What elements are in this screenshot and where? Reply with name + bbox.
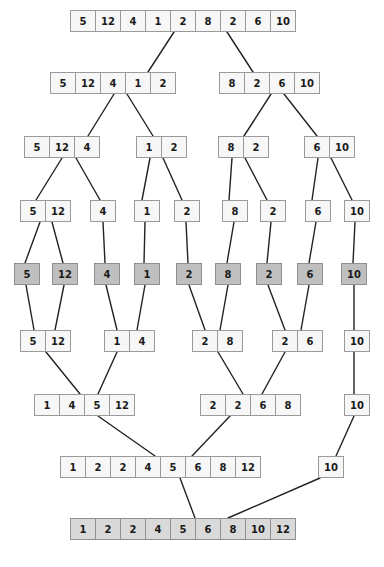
- array-node-merge-2-2: 10: [344, 394, 370, 416]
- array-cell: 1: [145, 10, 171, 32]
- array-cell: 8: [217, 330, 243, 352]
- array-cell: 1: [125, 72, 151, 94]
- array-cell: 6: [185, 456, 211, 478]
- array-cell: 12: [75, 72, 101, 94]
- array-cell: 6: [269, 72, 295, 94]
- array-cell: 2: [220, 10, 246, 32]
- array-node-result-0: 12245681012: [70, 518, 296, 540]
- array-cell: 12: [45, 330, 71, 352]
- array-node-divide-2-3: 610: [304, 136, 355, 158]
- array-cell: 12: [45, 200, 71, 222]
- array-cell: 2: [256, 263, 282, 285]
- array-cell: 2: [225, 394, 251, 416]
- array-cell: 2: [272, 330, 298, 352]
- array-node-base-case-6: 2: [256, 263, 282, 285]
- array-cell: 5: [20, 330, 46, 352]
- array-cell: 5: [160, 456, 186, 478]
- array-cell: 4: [145, 518, 171, 540]
- array-node-base-case-5: 8: [215, 263, 241, 285]
- array-cell: 5: [20, 200, 46, 222]
- array-cell: 4: [100, 72, 126, 94]
- array-cell: 10: [270, 10, 296, 32]
- array-cell: 10: [341, 263, 367, 285]
- array-node-divide-3-4: 8: [222, 200, 248, 222]
- array-cell: 2: [243, 136, 269, 158]
- array-node-base-case-1: 12: [52, 263, 78, 285]
- array-cell: 5: [50, 72, 76, 94]
- array-cell: 5: [14, 263, 40, 285]
- array-cell: 5: [24, 136, 50, 158]
- array-cell: 8: [220, 518, 246, 540]
- array-cell: 1: [136, 136, 162, 158]
- array-cell: 2: [110, 456, 136, 478]
- array-cell: 4: [120, 10, 146, 32]
- array-cell: 2: [176, 263, 202, 285]
- array-cell: 5: [84, 394, 110, 416]
- array-cell: 4: [94, 263, 120, 285]
- array-cell: 10: [318, 456, 344, 478]
- array-node-merge-1-1: 14: [104, 330, 155, 352]
- array-cell: 8: [222, 200, 248, 222]
- array-cell: 6: [195, 518, 221, 540]
- array-cell: 5: [70, 10, 96, 32]
- array-node-divide-1-0: 512412: [50, 72, 176, 94]
- array-node-base-case-4: 2: [176, 263, 202, 285]
- array-cell: 12: [49, 136, 75, 158]
- array-cell: 1: [60, 456, 86, 478]
- array-cell: 4: [129, 330, 155, 352]
- merge-sort-diagram: 5124128261051241282610512412826105124128…: [0, 0, 384, 567]
- array-cell: 8: [195, 10, 221, 32]
- array-node-divide-2-2: 82: [218, 136, 269, 158]
- array-cell: 1: [134, 200, 160, 222]
- array-node-base-case-2: 4: [94, 263, 120, 285]
- array-cell: 12: [52, 263, 78, 285]
- array-node-merge-3-0: 122456812: [60, 456, 261, 478]
- array-cell: 10: [245, 518, 271, 540]
- array-cell: 8: [275, 394, 301, 416]
- array-cell: 2: [95, 518, 121, 540]
- array-node-divide-3-6: 6: [305, 200, 331, 222]
- array-node-divide-2-0: 5124: [24, 136, 100, 158]
- array-node-divide-3-1: 4: [90, 200, 116, 222]
- array-node-divide-3-7: 10: [344, 200, 370, 222]
- array-cell: 12: [95, 10, 121, 32]
- array-node-divide-1-1: 82610: [219, 72, 320, 94]
- array-cell: 10: [344, 330, 370, 352]
- array-cell: 12: [270, 518, 296, 540]
- array-cell: 5: [170, 518, 196, 540]
- array-cell: 6: [297, 330, 323, 352]
- array-cell: 8: [215, 263, 241, 285]
- array-node-divide-3-0: 512: [20, 200, 71, 222]
- array-node-base-case-8: 10: [341, 263, 367, 285]
- array-cell: 2: [170, 10, 196, 32]
- array-node-merge-3-1: 10: [318, 456, 344, 478]
- array-cell: 10: [344, 200, 370, 222]
- array-cell: 10: [344, 394, 370, 416]
- array-cell: 1: [134, 263, 160, 285]
- array-cell: 2: [174, 200, 200, 222]
- array-node-base-case-3: 1: [134, 263, 160, 285]
- array-cell: 10: [329, 136, 355, 158]
- array-cell: 2: [85, 456, 111, 478]
- array-node-base-case-7: 6: [297, 263, 323, 285]
- array-node-merge-1-2: 28: [192, 330, 243, 352]
- array-node-merge-1-4: 10: [344, 330, 370, 352]
- array-cell: 6: [304, 136, 330, 158]
- array-cell: 1: [34, 394, 60, 416]
- array-node-merge-2-1: 2268: [200, 394, 301, 416]
- array-node-divide-3-5: 2: [260, 200, 286, 222]
- array-node-divide-3-3: 2: [174, 200, 200, 222]
- array-node-base-case-0: 5: [14, 263, 40, 285]
- array-cell: 2: [260, 200, 286, 222]
- array-cell: 2: [244, 72, 270, 94]
- array-node-merge-1-3: 26: [272, 330, 323, 352]
- array-cell: 6: [245, 10, 271, 32]
- array-cell: 2: [150, 72, 176, 94]
- array-node-merge-1-0: 512: [20, 330, 71, 352]
- array-cell: 1: [70, 518, 96, 540]
- array-cell: 6: [297, 263, 323, 285]
- array-cell: 8: [218, 136, 244, 158]
- array-cell: 12: [235, 456, 261, 478]
- array-cell: 2: [120, 518, 146, 540]
- node-layer: 5124128261051241282610512412826105124128…: [0, 0, 384, 567]
